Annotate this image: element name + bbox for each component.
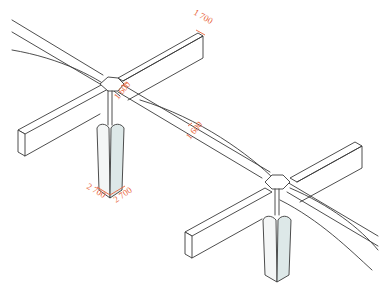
post-1	[97, 91, 124, 198]
post-2	[263, 189, 291, 282]
dimension-beam-end: 1 700	[192, 7, 215, 35]
dimension-label: 1 700	[192, 7, 215, 26]
structural-diagram: 1 700 1 600 1 600 2 700 2 700	[0, 0, 384, 289]
node-cap-2	[265, 175, 290, 189]
